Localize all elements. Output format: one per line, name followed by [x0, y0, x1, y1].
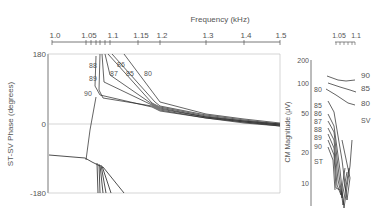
svg-text:80: 80	[144, 70, 152, 77]
svg-text:85: 85	[126, 70, 134, 77]
svg-text:1.1: 1.1	[107, 31, 119, 40]
svg-text:0: 0	[42, 120, 47, 129]
svg-text:90: 90	[84, 90, 92, 97]
magnitude-axis-label: CM Magnitude (μV)	[284, 102, 292, 163]
phase-axis-label: ST-SV Phase (degrees)	[6, 81, 15, 166]
svg-text:90: 90	[314, 143, 322, 150]
top-axis-tick-labels: 1.0 1.05 1.1 1.15 1.2 1.3 1.4 1.5	[49, 31, 287, 40]
magnitude-left-labels: 80 85 86 87 88 89 90 ST	[314, 86, 324, 165]
magnitude-y-tick-labels: 200 100 50 20 10	[297, 57, 309, 187]
svg-text:87: 87	[314, 118, 322, 125]
svg-text:180: 180	[33, 50, 47, 59]
svg-text:1.3: 1.3	[202, 31, 214, 40]
svg-text:1.4: 1.4	[240, 31, 252, 40]
svg-text:88: 88	[314, 126, 322, 133]
chart-figure: Frequency (kHz) 1.0 1.05 1.1 1.15 1.2 1.…	[0, 0, 384, 215]
frequency-axis-label: Frequency (kHz)	[190, 15, 249, 24]
svg-text:89: 89	[314, 134, 322, 141]
svg-text:86: 86	[314, 110, 322, 117]
right-top-tick-labels: 1.05 1.1	[332, 32, 361, 39]
svg-text:85: 85	[361, 84, 370, 93]
svg-text:100: 100	[297, 80, 309, 87]
phase-y-tick-labels: 180 0 -180	[30, 50, 47, 198]
svg-text:86: 86	[117, 61, 125, 68]
svg-text:SV: SV	[361, 117, 371, 124]
svg-text:20: 20	[301, 149, 309, 156]
svg-text:1.5: 1.5	[275, 31, 287, 40]
svg-text:200: 200	[297, 57, 309, 64]
svg-text:ST: ST	[314, 158, 324, 165]
svg-text:88: 88	[89, 62, 97, 69]
svg-text:89: 89	[89, 75, 97, 82]
svg-text:80: 80	[314, 86, 322, 93]
svg-text:50: 50	[301, 110, 309, 117]
magnitude-curves	[326, 76, 356, 208]
magnitude-right-labels: 90 85 80 SV	[361, 71, 371, 124]
svg-text:1.1: 1.1	[351, 32, 361, 39]
svg-text:87: 87	[110, 70, 118, 77]
svg-text:1.2: 1.2	[156, 31, 168, 40]
svg-text:1.05: 1.05	[332, 32, 346, 39]
svg-text:10: 10	[301, 180, 309, 187]
phase-lower-curves	[49, 155, 124, 193]
svg-text:-180: -180	[30, 189, 47, 198]
top-axis-ticks	[52, 40, 280, 45]
svg-text:1.0: 1.0	[49, 31, 61, 40]
svg-text:1.05: 1.05	[81, 31, 97, 40]
svg-text:90: 90	[361, 71, 370, 80]
svg-text:1.15: 1.15	[133, 31, 149, 40]
svg-text:80: 80	[361, 99, 370, 108]
svg-text:85: 85	[314, 102, 322, 109]
